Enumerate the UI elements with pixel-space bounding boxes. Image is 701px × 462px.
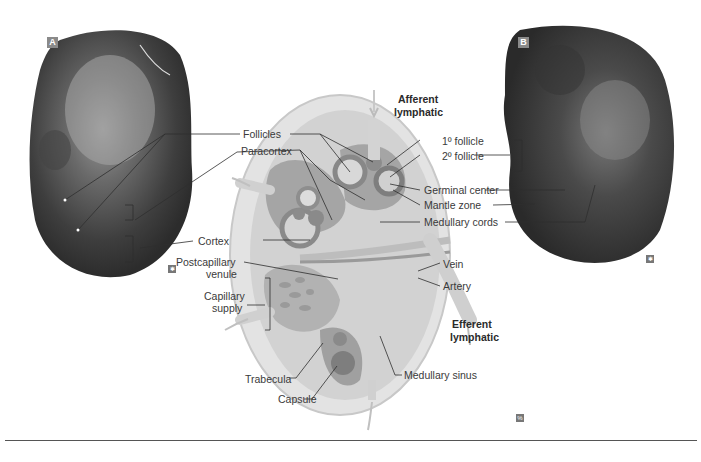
label-follicles: Follicles: [243, 128, 281, 140]
label-cortex: Cortex: [198, 235, 229, 247]
diagram-icon: %: [516, 414, 524, 422]
micrograph-b-icon: ✱: [646, 255, 654, 263]
label-artery: Artery: [443, 280, 471, 292]
micrograph-b: [504, 26, 674, 263]
label-secondary-follicle: 2º follicle: [442, 150, 484, 162]
label-trabecula: Trabecula: [245, 373, 291, 385]
label-vein: Vein: [443, 258, 463, 270]
label-primary-follicle: 1º follicle: [442, 135, 484, 147]
micrograph-a-icon: ✱: [168, 265, 176, 273]
divider-rule: [5, 440, 697, 441]
label-efferent: Efferent: [452, 318, 492, 330]
label-afferent: Afferent: [398, 93, 438, 105]
label-venule: venule: [206, 268, 237, 280]
label-mantle-zone: Mantle zone: [424, 199, 481, 211]
label-capsule: Capsule: [278, 393, 317, 405]
label-paracortex: Paracortex: [241, 145, 292, 157]
label-efferent-lymphatic: lymphatic: [450, 331, 499, 343]
label-afferent-lymphatic: lymphatic: [394, 106, 443, 118]
label-postcapillary: Postcapillary: [176, 256, 236, 268]
label-germinal-center: Germinal center: [424, 184, 499, 196]
panel-tag-a: A: [47, 37, 58, 48]
panel-tag-b: B: [518, 37, 529, 48]
label-supply: supply: [212, 302, 242, 314]
label-medullary-sinus: Medullary sinus: [404, 369, 477, 381]
lymph-node-diagram-canvas: [0, 0, 701, 462]
label-capillary: Capillary: [204, 290, 245, 302]
label-medullary-cords: Medullary cords: [424, 216, 498, 228]
micrograph-a: [30, 30, 193, 277]
